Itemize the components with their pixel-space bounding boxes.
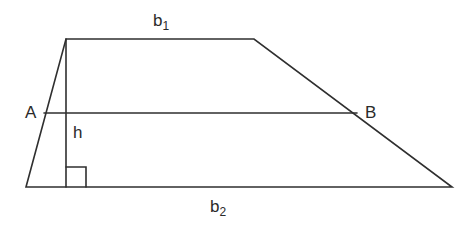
label-b2-subscript: 2 (219, 205, 226, 219)
right-angle-marker (66, 167, 86, 187)
label-B: B (365, 104, 376, 121)
label-b2: b2 (210, 198, 226, 218)
label-b1-subscript: 1 (162, 19, 169, 33)
label-A: A (25, 104, 36, 121)
trapezoid-diagram: b1 A B h b2 (0, 0, 466, 230)
trapezoid-figure (0, 0, 466, 230)
label-b1: b1 (153, 12, 169, 32)
label-h: h (73, 124, 82, 141)
